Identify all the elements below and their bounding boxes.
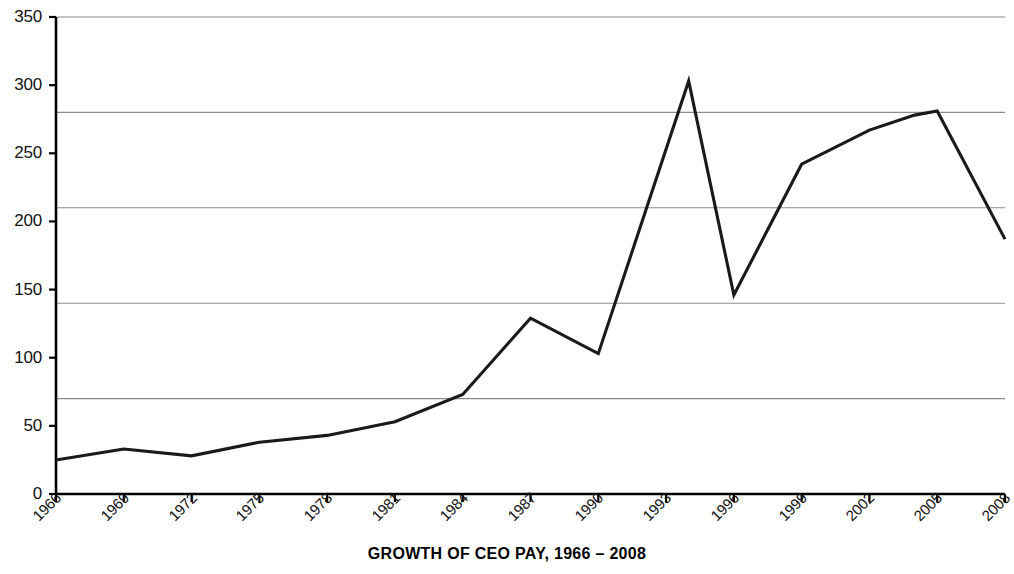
chart-title: GROWTH OF CEO PAY, 1966 – 2008 — [0, 545, 1014, 563]
y-tick-label: 300 — [2, 75, 42, 95]
gridlines-group — [56, 17, 1005, 399]
y-tick-label: 350 — [2, 7, 42, 27]
line-chart: 050100150200250300350 196619691972197519… — [0, 0, 1014, 574]
axes-group — [56, 17, 1005, 494]
y-tick-label: 100 — [2, 348, 42, 368]
chart-plot-area — [0, 0, 1014, 574]
y-tick-label: 250 — [2, 143, 42, 163]
data-series-line — [56, 81, 1005, 460]
y-tick-label: 50 — [2, 416, 42, 436]
y-tick-label: 0 — [2, 484, 42, 504]
y-tick-label: 150 — [2, 280, 42, 300]
y-tick-label: 200 — [2, 211, 42, 231]
